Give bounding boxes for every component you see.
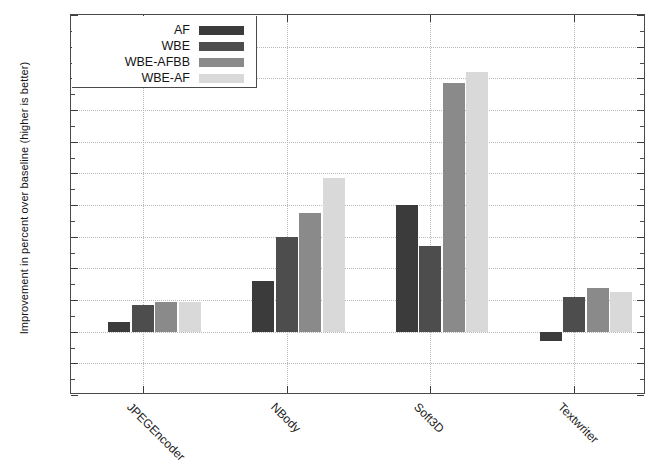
bar-af-jpegencoder	[108, 322, 130, 332]
bar-wbe-af-textwriter	[610, 292, 632, 332]
y-axis-minor-tick	[640, 126, 644, 127]
legend-swatch	[199, 42, 244, 51]
plot-area: AFWBEWBE-AFBBWBE-AF	[70, 14, 645, 394]
legend-label: WBE	[72, 39, 199, 53]
x-axis-tick	[430, 15, 431, 22]
gridline-horizontal	[71, 173, 644, 174]
y-axis-tick	[637, 205, 644, 206]
y-axis-minor-tick	[71, 189, 75, 190]
y-axis-minor-tick	[640, 189, 644, 190]
x-axis-tick	[430, 386, 431, 393]
legend-item: WBE	[72, 38, 256, 54]
bar-wbe-afbb-textwriter	[587, 288, 609, 332]
gridline-vertical	[287, 15, 288, 393]
bar-wbe-afbb-jpegencoder	[155, 302, 177, 331]
y-axis-minor-tick	[640, 316, 644, 317]
x-tick-label: NBody	[268, 400, 303, 435]
x-axis-tick	[574, 386, 575, 393]
y-axis-minor-tick	[640, 31, 644, 32]
bar-wbe-jpegencoder	[132, 305, 154, 332]
y-axis-minor-tick	[640, 253, 644, 254]
bar-af-nbody	[252, 281, 274, 332]
y-axis-minor-tick	[640, 158, 644, 159]
y-axis-tick	[637, 78, 644, 79]
y-axis-tick	[637, 47, 644, 48]
gridline-vertical	[574, 15, 575, 393]
y-axis-tick	[637, 268, 644, 269]
gridline-horizontal	[71, 205, 644, 206]
y-axis-minor-tick	[640, 221, 644, 222]
y-axis-title: Improvement in percent over baseline (hi…	[18, 8, 30, 388]
y-axis-minor-tick	[640, 63, 644, 64]
y-axis-tick	[637, 363, 644, 364]
y-axis-tick	[637, 142, 644, 143]
y-axis-minor-tick	[640, 348, 644, 349]
y-axis-tick	[637, 237, 644, 238]
legend-swatch	[199, 26, 244, 35]
bar-wbe-afbb-soft3d	[443, 83, 465, 332]
bar-wbe-nbody	[276, 237, 298, 332]
x-axis-tick	[287, 15, 288, 22]
bar-wbe-afbb-nbody	[299, 213, 321, 332]
y-axis-minor-tick	[71, 253, 75, 254]
y-axis-tick	[71, 395, 78, 396]
y-axis-tick	[637, 173, 644, 174]
y-axis-minor-tick	[71, 284, 75, 285]
legend-item: AF	[72, 22, 256, 38]
legend-label: WBE-AF	[72, 71, 199, 85]
y-axis-minor-tick	[640, 379, 644, 380]
x-axis-tick	[574, 15, 575, 22]
y-axis-tick	[71, 237, 78, 238]
y-axis-tick	[637, 395, 644, 396]
legend-item: WBE-AF	[72, 70, 256, 86]
y-axis-tick	[637, 15, 644, 16]
x-tick-label: Soft3D	[411, 400, 447, 436]
y-axis-minor-tick	[71, 221, 75, 222]
y-axis-tick	[71, 300, 78, 301]
x-axis-tick	[143, 386, 144, 393]
gridline-horizontal	[71, 237, 644, 238]
legend-item: WBE-AFBB	[72, 54, 256, 70]
bar-wbe-af-jpegencoder	[179, 302, 201, 331]
bar-af-textwriter	[540, 332, 562, 342]
gridline-horizontal	[71, 300, 644, 301]
legend-label: WBE-AFBB	[72, 55, 199, 69]
x-axis-tick	[287, 386, 288, 393]
bar-wbe-soft3d	[419, 246, 441, 332]
x-tick-label: JPEGEncoder	[124, 400, 188, 464]
y-axis-minor-tick	[71, 316, 75, 317]
gridline-horizontal	[71, 142, 644, 143]
gridline-horizontal	[71, 363, 644, 364]
y-axis-minor-tick	[71, 158, 75, 159]
gridline-vertical	[430, 15, 431, 393]
y-axis-tick	[637, 110, 644, 111]
y-axis-minor-tick	[71, 348, 75, 349]
y-axis-tick	[637, 332, 644, 333]
y-axis-minor-tick	[71, 379, 75, 380]
y-axis-tick	[71, 110, 78, 111]
y-axis-tick	[71, 268, 78, 269]
y-axis-tick	[71, 205, 78, 206]
bar-wbe-af-soft3d	[466, 72, 488, 332]
y-axis-tick	[71, 142, 78, 143]
legend-label: AF	[72, 23, 199, 37]
bar-wbe-af-nbody	[323, 178, 345, 332]
y-axis-minor-tick	[71, 126, 75, 127]
legend: AFWBEWBE-AFBBWBE-AF	[72, 16, 257, 88]
y-axis-tick	[71, 173, 78, 174]
legend-swatch	[199, 58, 244, 67]
gridline-horizontal	[71, 268, 644, 269]
legend-swatch	[199, 74, 244, 83]
bar-wbe-textwriter	[563, 297, 585, 332]
y-axis-tick	[637, 300, 644, 301]
y-axis-tick	[71, 363, 78, 364]
gridline-horizontal	[71, 110, 644, 111]
bar-af-soft3d	[396, 205, 418, 332]
x-tick-label: Textwriter	[555, 400, 601, 446]
y-axis-minor-tick	[640, 284, 644, 285]
y-axis-minor-tick	[640, 94, 644, 95]
y-axis-minor-tick	[71, 94, 75, 95]
y-axis-tick	[71, 332, 78, 333]
